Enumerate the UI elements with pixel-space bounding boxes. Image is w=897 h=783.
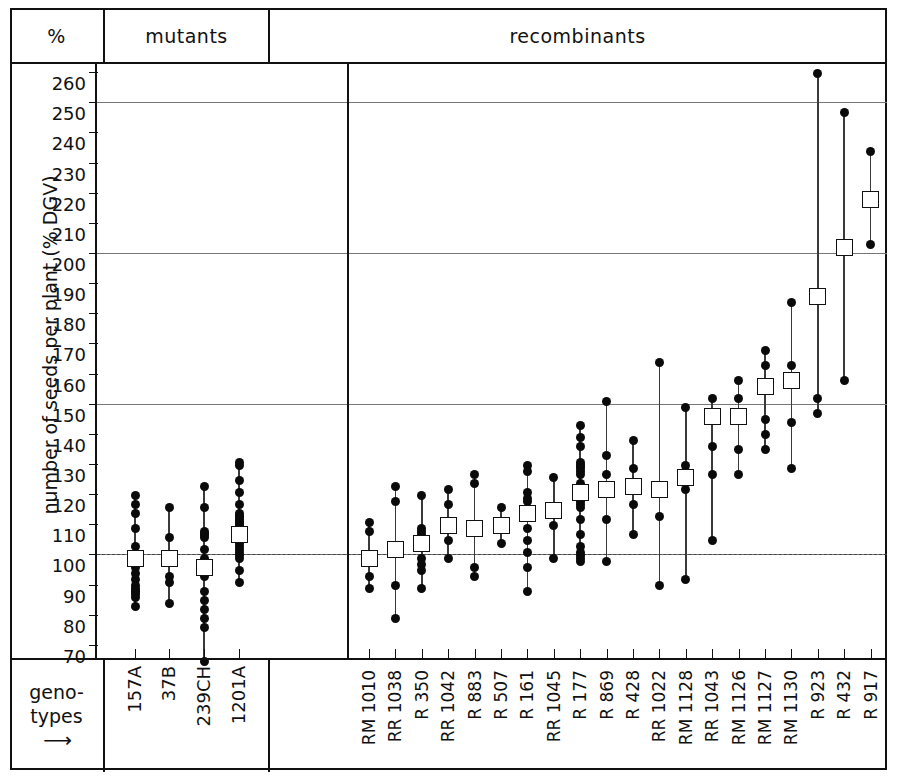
x-axis-label: RR 1043 bbox=[702, 670, 722, 742]
data-point bbox=[681, 575, 690, 584]
data-point bbox=[734, 445, 743, 454]
data-point bbox=[866, 147, 875, 156]
header-recombinants-label: recombinants bbox=[509, 25, 645, 47]
data-point bbox=[165, 599, 174, 608]
x-axis-label: RR 1042 bbox=[438, 670, 458, 742]
data-point bbox=[813, 394, 822, 403]
genotypes-label-line1: geno- bbox=[29, 682, 84, 703]
plot-area: number of seeds per plant (% DGV) 708090… bbox=[10, 64, 887, 658]
x-axis-label: RR 1022 bbox=[649, 670, 669, 742]
data-point bbox=[734, 376, 743, 385]
data-point bbox=[235, 578, 244, 587]
data-point bbox=[708, 442, 717, 451]
data-point bbox=[576, 442, 585, 451]
data-point bbox=[235, 566, 244, 575]
x-tick bbox=[501, 649, 502, 658]
data-point bbox=[235, 554, 244, 563]
data-point bbox=[444, 536, 453, 545]
x-tick bbox=[475, 649, 476, 658]
data-point bbox=[523, 536, 532, 545]
data-point bbox=[602, 470, 611, 479]
data-point bbox=[235, 461, 244, 470]
x-tick bbox=[844, 649, 845, 658]
data-point bbox=[523, 467, 532, 476]
gridline-150 bbox=[97, 404, 887, 405]
recombinant-labels-cell: RM 1010RR 1038R 350RR 1042R 883R 507R 16… bbox=[270, 660, 885, 772]
data-point bbox=[840, 376, 849, 385]
x-axis-label: 239CH bbox=[193, 666, 214, 726]
data-point bbox=[523, 563, 532, 572]
data-point bbox=[165, 533, 174, 542]
x-axis-label: R 177 bbox=[570, 670, 590, 720]
data-point bbox=[787, 361, 796, 370]
data-point bbox=[787, 418, 796, 427]
group-mean-marker bbox=[361, 550, 378, 567]
group-mean-marker bbox=[196, 559, 213, 576]
group-mean-marker bbox=[161, 550, 178, 567]
group-mean-marker bbox=[862, 191, 879, 208]
group-mean-marker bbox=[545, 502, 562, 519]
data-point bbox=[576, 470, 585, 479]
x-tick bbox=[739, 649, 740, 658]
data-point bbox=[576, 515, 585, 524]
x-axis-label: RM 1010 bbox=[359, 670, 379, 745]
data-point bbox=[629, 436, 638, 445]
x-axis-label: R 428 bbox=[623, 670, 643, 720]
data-point bbox=[734, 470, 743, 479]
data-point bbox=[813, 409, 822, 418]
footer-band: geno- types ⟶ 157A37B239CH1201A RM 1010R… bbox=[10, 658, 887, 770]
group-mean-marker bbox=[704, 408, 721, 425]
group-mean-marker bbox=[493, 517, 510, 534]
data-point bbox=[235, 488, 244, 497]
group-mean-marker bbox=[440, 517, 457, 534]
x-tick bbox=[818, 649, 819, 658]
x-axis-label: 157A bbox=[124, 666, 145, 713]
data-point bbox=[629, 464, 638, 473]
x-axis-label: 37B bbox=[158, 666, 179, 701]
data-point bbox=[761, 361, 770, 370]
data-point bbox=[655, 581, 664, 590]
x-tick bbox=[686, 649, 687, 658]
header-band: % mutants recombinants bbox=[10, 8, 887, 64]
data-point bbox=[391, 482, 400, 491]
data-point bbox=[549, 521, 558, 530]
data-point bbox=[200, 482, 209, 491]
data-point bbox=[470, 563, 479, 572]
data-point bbox=[761, 415, 770, 424]
x-axis-label: RM 1127 bbox=[755, 670, 775, 745]
data-point bbox=[391, 581, 400, 590]
data-point bbox=[497, 539, 506, 548]
group-mean-marker bbox=[651, 481, 668, 498]
gridline-250 bbox=[97, 102, 887, 103]
x-axis-label: RR 1045 bbox=[544, 670, 564, 742]
data-point bbox=[165, 578, 174, 587]
data-point bbox=[549, 554, 558, 563]
header-mutants-cell: mutants bbox=[105, 8, 270, 64]
x-tick bbox=[659, 649, 660, 658]
x-axis-label: R 350 bbox=[412, 670, 432, 720]
data-point bbox=[761, 445, 770, 454]
data-point bbox=[576, 530, 585, 539]
x-tick bbox=[527, 649, 528, 658]
x-tick bbox=[554, 649, 555, 658]
x-tick bbox=[135, 649, 136, 658]
x-axis-label: RM 1130 bbox=[781, 670, 801, 745]
header-percent-label: % bbox=[47, 25, 66, 47]
data-point bbox=[761, 430, 770, 439]
chart-figure: % mutants recombinants number of seeds p… bbox=[0, 0, 897, 783]
data-point bbox=[629, 530, 638, 539]
group-mean-marker bbox=[836, 239, 853, 256]
data-point bbox=[708, 394, 717, 403]
x-axis-label: R 507 bbox=[491, 670, 511, 720]
data-point bbox=[470, 572, 479, 581]
data-point bbox=[131, 509, 140, 518]
x-axis-label: R 161 bbox=[517, 670, 537, 720]
data-point bbox=[787, 464, 796, 473]
data-point bbox=[131, 524, 140, 533]
group-mean-marker bbox=[677, 469, 694, 486]
data-point bbox=[629, 500, 638, 509]
data-point bbox=[655, 358, 664, 367]
x-axis-label: R 917 bbox=[861, 670, 881, 720]
data-point bbox=[235, 476, 244, 485]
x-axis-label: RM 1126 bbox=[729, 670, 749, 745]
